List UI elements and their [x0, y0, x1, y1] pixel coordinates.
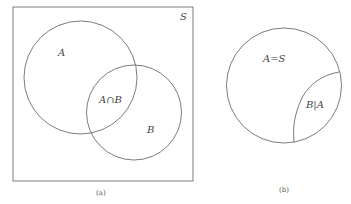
set-a-circle — [24, 21, 137, 134]
set-b-circle — [87, 65, 182, 160]
venn-diagram-figure: S A A∩B B (a) A=S B|A (b) — [0, 0, 351, 204]
set-b-label: B — [146, 124, 154, 135]
conditional-label: B|A — [305, 99, 324, 111]
caption-b: (b) — [279, 186, 289, 194]
panel-b: A=S B|A (b) — [227, 28, 342, 194]
set-a-label: A — [57, 47, 65, 58]
panel-a: S A A∩B B (a) — [13, 7, 193, 197]
caption-a: (a) — [96, 189, 106, 197]
intersection-label: A∩B — [98, 94, 122, 105]
universe-label: S — [180, 11, 187, 22]
set-a-equals-s-label: A=S — [262, 53, 286, 64]
set-a-equals-s-circle — [227, 28, 342, 143]
